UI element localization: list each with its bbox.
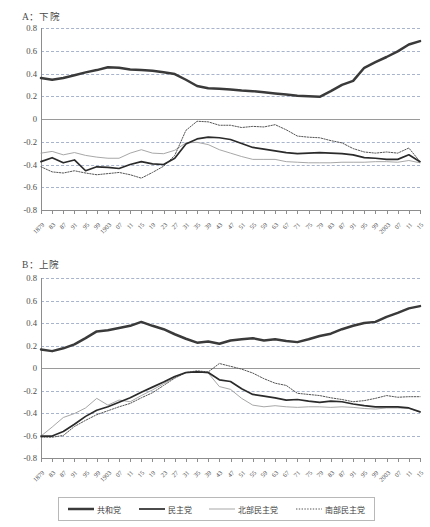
y-axis-tick-label: -0.4 — [23, 408, 37, 418]
legend-item: 共和党 — [68, 504, 121, 515]
legend-swatch-北部民主党 — [209, 505, 235, 513]
chart-legend: 共和党民主党北部民主党南部民主党 — [58, 497, 375, 521]
legend-label: 北部民主党 — [238, 504, 278, 515]
x-axis-tick — [420, 210, 421, 214]
y-axis-tick-label: -0.2 — [23, 386, 37, 396]
y-axis-tick-label: 0.6 — [26, 296, 37, 306]
y-axis-tick-label: -0.4 — [23, 160, 37, 170]
series-line-北部民主党 — [41, 142, 420, 162]
y-axis-tick-label: 0.4 — [26, 318, 37, 328]
legend-label: 共和党 — [97, 504, 121, 515]
y-axis-tick-label: 0.8 — [26, 23, 37, 33]
y-axis-tick-label: 0 — [33, 363, 37, 373]
legend-swatch-民主党 — [139, 505, 165, 513]
series-line-南部民主党 — [41, 121, 420, 178]
legend-item: 北部民主党 — [209, 504, 278, 515]
x-axis-labels-senate: 1879838791959919030711151923273135394347… — [41, 462, 420, 496]
series-layer — [41, 28, 420, 210]
plot-area-house: 0.80.60.40.20-0.2-0.4-0.6-0.8 — [41, 28, 420, 210]
x-axis-tick — [420, 458, 421, 462]
y-axis-tick-label: -0.6 — [23, 431, 37, 441]
series-line-共和党 — [41, 306, 420, 351]
y-axis-tick-label: -0.6 — [23, 182, 37, 192]
y-axis-tick-label: 0.4 — [26, 69, 37, 79]
series-line-南部民主党 — [41, 364, 420, 438]
plot-area-senate: 0.80.60.40.20-0.2-0.4-0.6-0.8 — [41, 278, 420, 458]
legend-swatch-南部民主党 — [296, 505, 322, 513]
series-line-民主党 — [41, 137, 420, 171]
legend-item: 民主党 — [139, 504, 192, 515]
legend-label: 南部民主党 — [325, 504, 365, 515]
panel-senate: B：上院 0.80.60.40.20-0.2-0.4-0.6-0.8 18798… — [0, 252, 430, 497]
series-line-共和党 — [41, 41, 420, 97]
y-axis-tick-label: -0.8 — [23, 453, 37, 463]
y-axis-tick-label: 0.6 — [26, 46, 37, 56]
series-layer — [41, 278, 420, 458]
y-axis-tick-label: -0.2 — [23, 137, 37, 147]
panel-title-house: A：下院 — [22, 9, 60, 23]
y-axis-tick-label: 0 — [33, 114, 37, 124]
panel-title-senate: B：上院 — [22, 257, 60, 271]
panel-house: A：下院 0.80.60.40.20-0.2-0.4-0.6-0.8 18798… — [0, 0, 430, 252]
legend-swatch-共和党 — [68, 505, 94, 513]
y-axis-tick-label: 0.2 — [26, 341, 37, 351]
x-axis-labels-house: 1879838791959919030711151923273135394347… — [41, 214, 420, 248]
y-axis-tick-label: -0.8 — [23, 205, 37, 215]
legend-item: 南部民主党 — [296, 504, 365, 515]
y-axis-tick-label: 0.8 — [26, 273, 37, 283]
series-line-民主党 — [41, 372, 420, 436]
legend-label: 民主党 — [168, 504, 192, 515]
y-axis-tick-label: 0.2 — [26, 91, 37, 101]
